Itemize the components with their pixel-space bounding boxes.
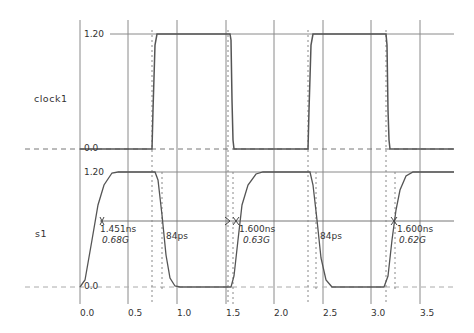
clock1-trace [80, 34, 454, 149]
svg-text:3.5: 3.5 [420, 308, 434, 318]
svg-text:1.0: 1.0 [177, 308, 192, 318]
svg-text:2.5: 2.5 [323, 308, 337, 318]
svg-text:0.5: 0.5 [128, 308, 142, 318]
annotation-period-2: 1.600ns [239, 224, 275, 234]
annotation-period-3: 1.600ns [397, 224, 433, 234]
annotation-period-1: 1.451ns [100, 224, 136, 234]
signal-name-s1[interactable]: s1 [35, 228, 47, 239]
svg-text:2.0: 2.0 [274, 308, 289, 318]
horizontal-gridlines [25, 34, 454, 287]
annotation-freq-3: 0.62G [399, 235, 426, 245]
clock-ymax-label: 1.20 [84, 29, 104, 39]
svg-text:0.0: 0.0 [80, 308, 95, 318]
annotation-delay-2: 84ps [320, 231, 342, 241]
s1-ymax-label: 1.20 [84, 167, 104, 177]
annotation-freq-1: 0.68G [102, 235, 129, 245]
annotation-freq-2: 0.63G [243, 235, 270, 245]
clock-ymin-label: 0.0 [84, 143, 99, 153]
x-axis-ticks: 0.0 0.5 1.0 1.5 2.0 2.5 3.0 3.5 [80, 308, 434, 318]
svg-text:3.0: 3.0 [371, 308, 386, 318]
vertical-gridlines [80, 20, 420, 304]
signal-name-clock1[interactable]: clock1 [34, 93, 67, 104]
svg-text:1.5: 1.5 [226, 308, 240, 318]
s1-ymin-label: 0.0 [84, 281, 99, 291]
waveform-chart: 1.20 0.0 1.20 0.0 clock1 s1 0.0 0.5 1.0 … [0, 0, 474, 333]
annotation-delay-1: 84ps [166, 231, 188, 241]
